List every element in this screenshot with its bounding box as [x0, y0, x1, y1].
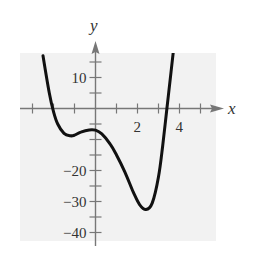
x-axis-arrow-icon [210, 105, 224, 113]
y-tick-label: −20 [63, 163, 86, 179]
x-axis-label: x [227, 99, 236, 118]
function-graph: 2410−20−30−40 x y [0, 0, 262, 255]
y-axis-label: y [88, 16, 98, 35]
plot-background [20, 53, 216, 241]
y-tick-label: −30 [63, 194, 86, 210]
x-tick-label: 2 [134, 119, 142, 135]
y-tick-label: 10 [72, 70, 87, 86]
y-tick-label: −40 [63, 225, 86, 241]
x-tick-label: 4 [176, 119, 184, 135]
